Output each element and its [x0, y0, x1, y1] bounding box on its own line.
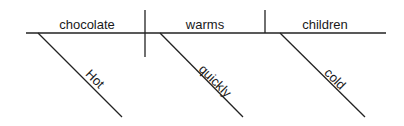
object-modifier-word: cold: [321, 65, 348, 92]
verb-modifier-word: quickly: [196, 61, 235, 100]
verb-word: warms: [185, 17, 225, 32]
object-word: children: [302, 17, 348, 32]
subject-modifier-line: [38, 33, 122, 117]
subject-word: chocolate: [59, 17, 115, 32]
sentence-diagram: chocolate warms children Hot quickly col…: [0, 0, 404, 126]
subject-modifier-word: Hot: [83, 66, 108, 91]
